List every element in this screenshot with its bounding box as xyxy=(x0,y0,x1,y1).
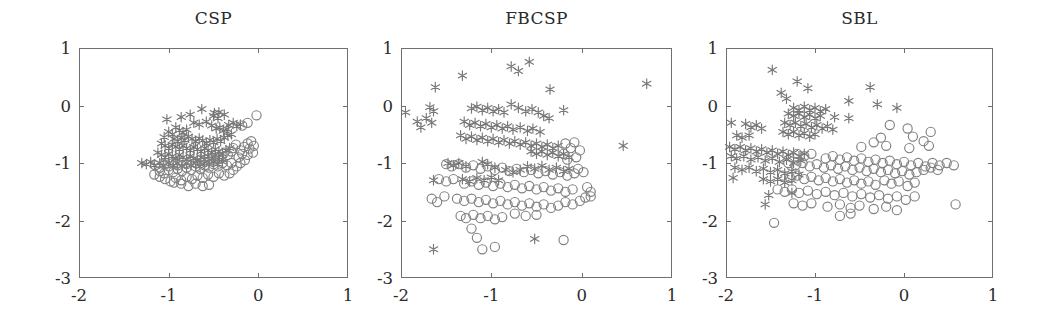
data-point-asterisk xyxy=(165,143,173,153)
data-point-circle xyxy=(784,158,793,167)
data-point-asterisk xyxy=(491,163,499,173)
data-point-circle xyxy=(452,194,461,203)
data-point-circle xyxy=(914,158,923,167)
data-point-asterisk xyxy=(816,107,824,117)
data-point-asterisk xyxy=(462,134,470,144)
data-point-circle xyxy=(490,242,499,251)
data-point-circle xyxy=(196,155,205,164)
series-class-asterisk xyxy=(138,104,245,171)
x-tick-label: -2 xyxy=(393,286,409,305)
data-point-asterisk xyxy=(181,135,189,145)
data-point-asterisk xyxy=(227,129,235,139)
data-point-asterisk xyxy=(768,146,776,156)
data-point-asterisk xyxy=(205,160,213,170)
data-point-circle xyxy=(857,179,866,188)
data-point-circle xyxy=(563,171,572,180)
data-point-asterisk xyxy=(800,128,808,138)
data-point-asterisk xyxy=(168,129,176,139)
x-tick-mark xyxy=(258,273,259,278)
data-point-circle xyxy=(864,157,873,166)
data-point-asterisk xyxy=(494,138,502,148)
data-point-circle xyxy=(164,165,173,174)
data-point-asterisk xyxy=(458,71,466,81)
data-point-asterisk xyxy=(781,178,789,188)
data-point-circle xyxy=(857,142,866,151)
y-tick-mark xyxy=(343,106,348,107)
plot-area xyxy=(726,48,993,278)
data-point-asterisk xyxy=(516,165,524,175)
data-point-asterisk xyxy=(476,121,484,131)
data-point-asterisk xyxy=(619,141,627,151)
data-point-asterisk xyxy=(209,157,217,167)
y-tick-mark xyxy=(401,221,406,222)
y-tick-mark xyxy=(988,106,993,107)
data-point-asterisk xyxy=(507,100,515,110)
data-point-asterisk xyxy=(873,100,881,110)
data-point-asterisk xyxy=(199,136,207,146)
data-point-circle xyxy=(834,164,843,173)
data-point-circle xyxy=(800,175,809,184)
data-point-circle xyxy=(892,206,901,215)
x-tick-mark xyxy=(169,273,170,278)
data-point-circle xyxy=(561,187,570,196)
data-point-circle xyxy=(178,167,187,176)
x-tick-mark xyxy=(582,273,583,278)
data-point-circle xyxy=(193,171,202,180)
data-point-circle xyxy=(807,199,816,208)
data-point-circle xyxy=(182,160,191,169)
data-point-circle xyxy=(209,156,218,165)
data-point-asterisk xyxy=(218,149,226,159)
data-point-circle xyxy=(885,120,894,129)
data-point-asterisk xyxy=(174,158,182,168)
data-point-asterisk xyxy=(752,147,760,157)
y-tick-label: 0 xyxy=(680,96,718,115)
data-point-circle xyxy=(198,181,207,190)
data-point-circle xyxy=(177,176,186,185)
data-point-circle xyxy=(160,160,169,169)
data-point-asterisk xyxy=(531,234,539,244)
data-point-asterisk xyxy=(806,132,814,142)
data-point-asterisk xyxy=(225,120,233,130)
data-point-asterisk xyxy=(795,151,803,161)
data-point-circle xyxy=(503,200,512,209)
data-point-asterisk xyxy=(784,109,792,119)
data-point-circle xyxy=(807,172,816,181)
data-point-asterisk xyxy=(532,149,540,159)
data-point-circle xyxy=(789,199,798,208)
data-point-asterisk xyxy=(215,108,223,118)
data-point-asterisk xyxy=(157,150,165,160)
data-point-asterisk xyxy=(422,113,430,123)
data-point-asterisk xyxy=(774,174,782,184)
marker-layer xyxy=(0,0,1037,335)
data-point-circle xyxy=(880,176,889,185)
data-point-asterisk xyxy=(822,104,830,114)
data-point-asterisk xyxy=(429,175,437,185)
data-point-circle xyxy=(519,168,528,177)
data-point-circle xyxy=(546,186,555,195)
data-point-circle xyxy=(869,164,878,173)
data-point-circle xyxy=(876,133,885,142)
x-tick-mark xyxy=(904,48,905,53)
data-point-circle xyxy=(812,160,821,169)
data-point-asterisk xyxy=(775,157,783,167)
x-tick-mark xyxy=(169,48,170,53)
data-point-circle xyxy=(823,202,832,211)
data-point-circle xyxy=(866,193,875,202)
data-point-asterisk xyxy=(187,161,195,171)
data-point-asterisk xyxy=(212,124,220,134)
data-point-circle xyxy=(850,156,859,165)
data-point-circle xyxy=(454,160,463,169)
data-point-asterisk xyxy=(527,147,535,157)
data-point-asterisk xyxy=(217,136,225,146)
data-point-asterisk xyxy=(165,127,173,137)
data-point-asterisk xyxy=(747,143,755,153)
data-point-asterisk xyxy=(554,141,562,151)
data-point-asterisk xyxy=(777,88,785,98)
data-point-asterisk xyxy=(172,123,180,133)
data-point-circle xyxy=(225,169,234,178)
data-point-asterisk xyxy=(788,166,796,176)
data-point-asterisk xyxy=(731,163,739,173)
data-point-circle xyxy=(846,203,855,212)
data-point-circle xyxy=(525,199,534,208)
data-point-asterisk xyxy=(220,110,228,120)
